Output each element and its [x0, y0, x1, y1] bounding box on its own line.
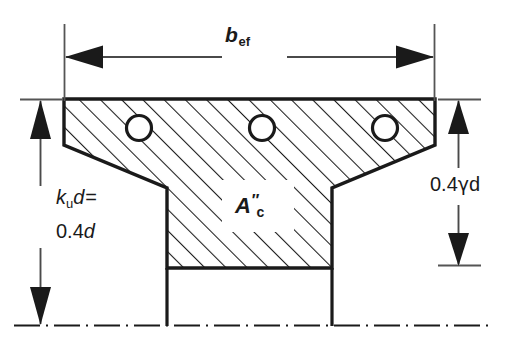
arrowhead-up [30, 100, 51, 139]
reinforcement-bar-circle [373, 116, 398, 141]
arrowhead-down [448, 233, 469, 266]
figure-container: bef kud= 0.4d 0.4γd A″c [0, 0, 505, 343]
label-effective-width: bef [225, 23, 250, 49]
label-effective-width-base: b [225, 23, 238, 46]
web-stem-below-stress-block [167, 268, 332, 326]
label-ku-variable: d [73, 186, 84, 208]
label-gamma-coefficient: 0.4 [430, 173, 458, 195]
label-neutral-axis-line1: kud= [56, 186, 97, 211]
label-concrete-area-subscript: c [256, 204, 264, 220]
label-concrete-area-base: A [235, 193, 251, 218]
arrowhead-left [65, 46, 103, 69]
label-stress-block-depth: 0.4γd [430, 173, 480, 197]
label-effective-width-subscript: ef [238, 34, 250, 49]
reinforcement-bar-circle [127, 116, 152, 141]
label-ku-value: 0.4 [56, 220, 84, 242]
arrowhead-down [30, 287, 51, 325]
cross-section-drawing [0, 0, 505, 343]
label-neutral-axis-depth: kud= 0.4d [56, 186, 97, 244]
arrowhead-right [396, 46, 434, 69]
arrowhead-up [448, 100, 469, 134]
label-ku-value-variable: d [84, 220, 95, 242]
label-ku-base: k [56, 186, 66, 208]
label-concrete-area: A″c [235, 192, 264, 220]
gamma-symbol: γ [458, 173, 469, 195]
label-ku-equals: = [85, 186, 97, 208]
label-neutral-axis-line2: 0.4d [56, 220, 97, 244]
label-gamma-variable: d [469, 173, 480, 195]
reinforcement-bar-circle [250, 116, 275, 141]
